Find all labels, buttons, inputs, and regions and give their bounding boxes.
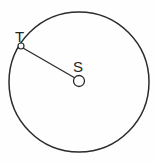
circle-diagram-canvas: T S	[0, 0, 155, 162]
point-label-t: T	[15, 29, 24, 44]
point-label-s: S	[73, 59, 83, 74]
geometry-svg	[0, 0, 155, 162]
point-marker-s	[74, 76, 85, 87]
radius-segment-ts	[23, 48, 75, 78]
